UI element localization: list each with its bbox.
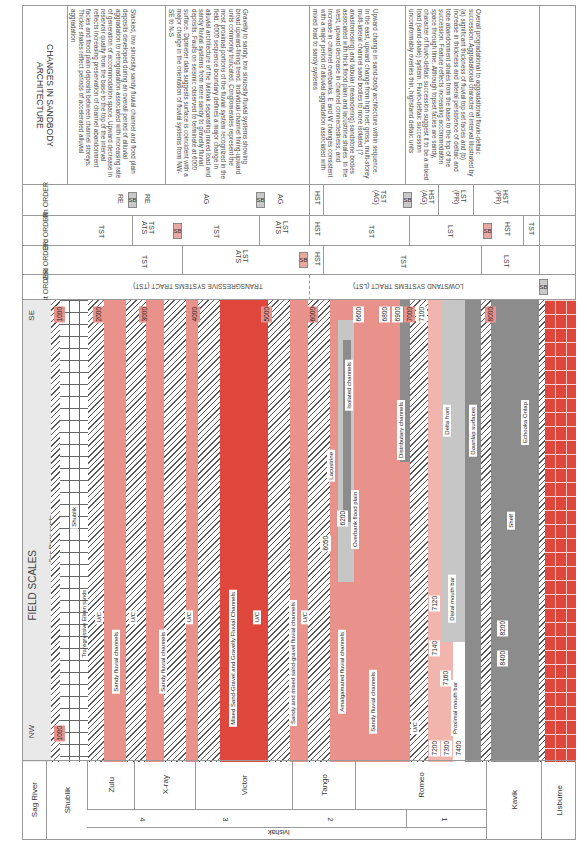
depth-tag: 7400 — [453, 740, 464, 756]
depth-tag: 7300 — [441, 740, 452, 756]
mixed-sand-gravel-label: Mixed Sand-Gravel and Gravelly Fluvial C… — [229, 590, 237, 727]
lisburne-zone — [545, 300, 576, 762]
order4-row: 4th ORDER RE SB RE AG SB AG HST TST (AG)… — [23, 185, 575, 216]
formation-sag-river: Sag River — [23, 761, 46, 839]
order4-tst-ag: TST (AG) — [371, 190, 387, 212]
depth-tag: 6900 — [392, 306, 403, 322]
formation-ivishak: Ivishak — [268, 829, 290, 836]
order4-hst: HST — [314, 191, 321, 205]
member-label: X-ray — [161, 775, 170, 794]
unit-2: 2 — [327, 818, 334, 822]
depth-tag: 4000 — [189, 306, 200, 322]
downlap-label: Downlap surfaces — [469, 405, 477, 457]
sb-badge: SB — [483, 223, 492, 239]
changes-text-5 — [539, 6, 577, 184]
depth-tag: 2000 — [93, 306, 104, 322]
order3-hst: HST — [504, 222, 511, 236]
order4-label-cell: 4th ORDER — [23, 185, 67, 215]
amalgamated-label: Amalgamated fluvial channels — [338, 630, 346, 714]
shale-band — [465, 300, 481, 762]
divider — [406, 809, 407, 827]
depth-tag: 7100 — [416, 306, 427, 322]
depth-tag: 6600 — [353, 306, 364, 322]
depth-tag: 6050 — [320, 535, 331, 551]
depth-tag: 7120 — [429, 595, 440, 611]
member-xray: X-ray — [134, 761, 195, 809]
changes-text-2: Gravelly to sandy, low sinuosity fluvial… — [165, 6, 309, 184]
formation-lisburne: Lisburne — [541, 761, 577, 839]
hatch-band — [88, 300, 104, 762]
sb-badge: SB — [128, 192, 137, 208]
order3-hst: HST — [314, 222, 321, 236]
order1-row: 1st ORDER TRANSGRESSIVE SYSTEMS TRACT (T… — [23, 275, 575, 300]
member-romeo: Romeo — [355, 761, 486, 809]
order3-tst: TST — [368, 225, 375, 238]
echooka-label: Echooka Onlap — [521, 400, 529, 445]
shelf-label: Shelf — [507, 512, 515, 530]
unit-4: 4 — [139, 818, 146, 822]
sb-badge: SB — [403, 192, 412, 208]
order4-ag: AG — [277, 194, 284, 204]
member-row: Zulu X-ray Victor Tango Romeo — [87, 761, 486, 809]
sb-badge: SB — [256, 192, 265, 208]
sb-badge: SB — [299, 252, 308, 268]
uc-label: U/C — [185, 610, 193, 624]
depth-tag: 8400 — [497, 650, 508, 666]
sand-band — [378, 300, 400, 762]
uc-label: U/C — [129, 610, 137, 624]
member-tango: Tango — [292, 761, 355, 809]
order4-re: RE — [117, 194, 124, 204]
depth-tag: 1000 — [54, 725, 65, 741]
shelf-band — [491, 300, 539, 762]
hatch-band — [481, 300, 491, 762]
depth-tag: 7000 — [404, 306, 415, 322]
order3-tst: TST — [528, 222, 535, 235]
hatch-band — [410, 300, 428, 762]
uc-label: U/C — [95, 610, 103, 624]
order2-tst: TST — [400, 255, 407, 268]
sand-band — [186, 300, 198, 762]
depth-tag: 3000 — [139, 306, 150, 322]
order4-re: RE — [144, 194, 151, 204]
sandy-fluvial-label: Sandy fluvial channels — [369, 670, 377, 734]
depth-tag: 7200 — [429, 740, 440, 756]
sb-badge: SB — [173, 223, 182, 239]
order3-lst: LST — [447, 225, 454, 238]
shublik-label: Shublik — [70, 505, 78, 529]
uc-label: U/C — [253, 610, 261, 624]
unit-1: 1 — [441, 818, 448, 822]
hatch-band — [198, 300, 220, 762]
gravel-band — [220, 300, 268, 762]
member-label: Zulu — [107, 777, 116, 793]
member-zulu: Zulu — [87, 761, 134, 809]
hatch-band — [164, 300, 186, 762]
formation-table: Sag River Shublik Zulu X-ray Victor Tang… — [22, 760, 576, 840]
nw-label: NW — [27, 725, 36, 738]
changes-row: CHANGES IN SANDBODY ARCHITECTURE Stacked… — [22, 5, 576, 185]
changes-text-4: Overall progradational to aggradational … — [405, 6, 539, 184]
order4-ag: AG — [203, 194, 210, 204]
se-label: SE — [27, 310, 36, 321]
overbank-label: Overbank flood plain — [351, 490, 359, 549]
distributary-label: Distributary channels — [397, 400, 405, 460]
depth-tag: 8200 — [497, 620, 508, 636]
formation-label: Lisburne — [555, 785, 564, 816]
member-label: Victor — [240, 775, 249, 795]
depth-tag: 7140 — [429, 640, 440, 656]
depth-tag: 6200 — [337, 510, 348, 526]
hatch-band — [268, 300, 290, 762]
unit-3: 3 — [222, 818, 229, 822]
order3-lst-ats: LST ATS — [273, 221, 289, 243]
isolated-label: Isolated channels — [345, 360, 353, 411]
sand-band — [400, 462, 410, 762]
changes-title-cell: CHANGES IN SANDBODY ARCHITECTURE — [23, 6, 67, 184]
order2-row: 2nd ORDER TST LST ATS SB HST TST LST — [23, 246, 575, 275]
order3-tst: TST — [213, 225, 220, 238]
order4-hst-ag: HST (AG) — [419, 190, 435, 212]
order3-tst: TST — [98, 225, 105, 238]
changes-text-1: Stacked, low sinuosity sandy fluvial cha… — [67, 6, 165, 184]
member-label: Tango — [320, 774, 329, 796]
order-table: 4th ORDER RE SB RE AG SB AG HST TST (AG)… — [22, 185, 576, 300]
tst-tract: TRANSGRESSIVE SYSTEMS TRACT (TST) — [133, 283, 263, 290]
order2-lst-ats: LST ATS — [233, 250, 249, 272]
